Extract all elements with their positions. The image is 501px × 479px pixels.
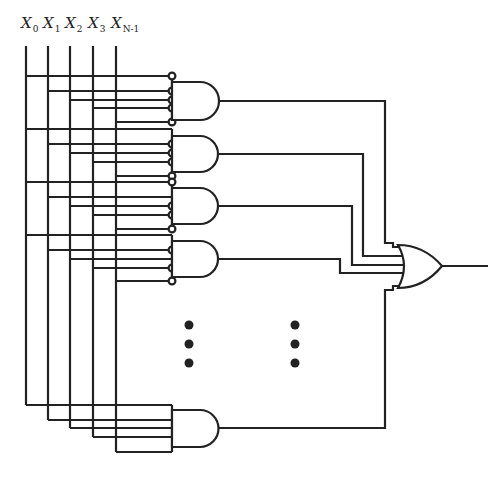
inverter-bubble xyxy=(169,73,176,80)
ellipsis-dot xyxy=(185,321,194,330)
ellipsis-dot xyxy=(291,340,300,349)
gates xyxy=(169,73,488,452)
ellipsis-dot xyxy=(291,359,300,368)
and-to-or-wire-1 xyxy=(218,101,402,247)
and-to-or-wire-5 xyxy=(218,286,400,428)
inverter-bubble xyxy=(169,226,176,233)
and-gate-1 xyxy=(172,82,219,120)
ellipsis-dot xyxy=(291,321,300,330)
ellipsis-dot xyxy=(185,340,194,349)
and-gate-2 xyxy=(172,136,218,172)
and-gate-3 xyxy=(172,188,218,224)
and-gate-4 xyxy=(172,241,218,277)
circuit-diagram xyxy=(0,0,501,479)
inverter-bubble xyxy=(169,278,176,285)
and-gate-5 xyxy=(172,410,219,447)
or-gate xyxy=(398,245,442,288)
ellipsis-dot xyxy=(185,359,194,368)
ellipsis-dots xyxy=(185,321,300,368)
inverter-bubble xyxy=(169,179,176,186)
